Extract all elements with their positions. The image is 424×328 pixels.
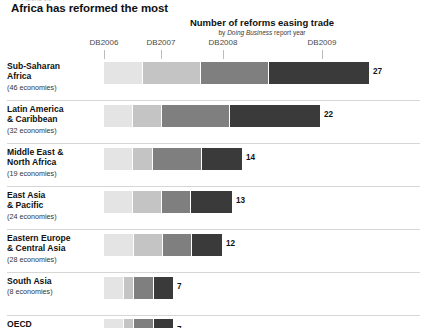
row-label: Latin America& Caribbean(32 economies) [7,104,103,136]
row-total-value: 12 [226,239,235,248]
row-separator [7,186,420,187]
bar-segment-db2008 [201,62,269,84]
row-separator [7,315,420,316]
row-label-line1: South Asia [7,276,103,286]
row-label: South Asia(8 economies) [7,276,103,297]
row-label: Middle East &North Africa(19 economies) [7,147,103,179]
bar-segment-db2007 [133,105,162,127]
bar-segment-db2007 [124,319,134,328]
stacked-bar [104,319,173,328]
bar-segment-db2006 [104,319,124,328]
stacked-bar [104,105,320,127]
row-separator [7,143,420,144]
bar-segment-db2009 [230,105,320,127]
row-label-line1: Middle East & [7,147,103,157]
row-label-line2: North Africa [7,157,103,167]
bar-segment-db2009 [192,234,222,256]
bar-segment-db2008 [162,191,191,213]
bar-segment-db2007 [133,191,162,213]
row-label-line2: & Central Asia [7,243,103,253]
bar-segment-db2008 [153,148,202,170]
bar-rows: Sub-SaharanAfrica(46 economies)27Latin A… [0,57,424,328]
bar-segment-db2008 [134,277,154,299]
row-economies-count: (8 economies) [7,287,103,297]
axis-label-db2009: DB2009 [308,38,337,47]
stacked-bar [104,277,173,299]
row-separator [7,229,420,230]
bar-segment-db2007 [124,277,134,299]
chart-row: Eastern Europe& Central Asia(28 economie… [0,229,424,272]
axis-label-db2006: DB2006 [90,38,119,47]
row-label-line1: Sub-Saharan [7,61,103,71]
axis-label-db2007: DB2007 [147,38,176,47]
row-label: Sub-SaharanAfrica(46 economies) [7,61,103,93]
chart-row: OECDhigh income7 [0,315,424,328]
bar-segment-db2009 [202,148,242,170]
stacked-bar [104,191,232,213]
bar-segment-db2009 [191,191,232,213]
bar-segment-db2006 [104,191,133,213]
row-label-line2: & Pacific [7,200,103,210]
bar-segment-db2006 [104,148,133,170]
bar-segment-db2008 [134,319,154,328]
row-economies-count: (46 economies) [7,83,103,93]
row-separator [7,272,420,273]
bar-segment-db2009 [269,62,369,84]
row-economies-count: (24 economies) [7,212,103,222]
bar-segment-db2006 [104,234,134,256]
stacked-bar [104,148,242,170]
row-economies-count: (28 economies) [7,255,103,265]
stacked-bar [104,62,369,84]
row-label-line2: & Caribbean [7,114,103,124]
bar-segment-db2007 [134,234,163,256]
chart-row: Sub-SaharanAfrica(46 economies)27 [0,57,424,100]
bar-segment-db2008 [162,105,230,127]
row-label: Eastern Europe& Central Asia(28 economie… [7,233,103,265]
row-label: East Asia& Pacific(24 economies) [7,190,103,222]
row-label-line1: OECD [7,319,103,328]
row-economies-count: (19 economies) [7,169,103,179]
bar-segment-db2008 [163,234,192,256]
row-total-value: 14 [246,153,255,162]
bar-segment-db2006 [104,277,124,299]
row-separator [7,100,420,101]
stacked-bar [104,234,222,256]
bar-segment-db2006 [104,62,143,84]
bar-segment-db2007 [133,148,153,170]
chart-row: Middle East &North Africa(19 economies)1… [0,143,424,186]
chart-figure: FIGURE 1.1 Africa has reformed the most … [0,0,424,328]
row-label-line1: Eastern Europe [7,233,103,243]
chart-row: East Asia& Pacific(24 economies)13 [0,186,424,229]
row-total-value: 13 [236,196,245,205]
row-label-line1: East Asia [7,190,103,200]
row-economies-count: (32 economies) [7,126,103,136]
chart-row: Latin America& Caribbean(32 economies)22 [0,100,424,143]
row-label: OECDhigh income [7,319,103,328]
row-total-value: 27 [373,67,382,76]
row-label-line2: Africa [7,71,103,81]
bar-segment-db2007 [143,62,201,84]
axis-label-db2008: DB2008 [209,38,238,47]
bar-segment-db2006 [104,105,133,127]
row-label-line1: Latin America [7,104,103,114]
row-total-value: 22 [324,110,333,119]
chart-row: South Asia(8 economies)7 [0,272,424,315]
bar-segment-db2009 [154,277,173,299]
bar-segment-db2009 [154,319,173,328]
row-total-value: 7 [177,282,182,291]
